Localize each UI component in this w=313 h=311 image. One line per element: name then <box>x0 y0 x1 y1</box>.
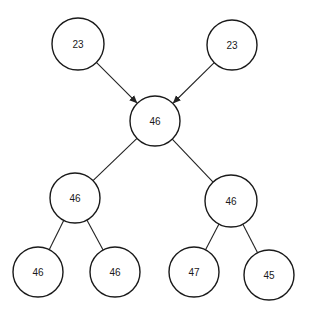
node-mid-left: 46 <box>50 173 100 223</box>
nodes-group: 232346464646464745 <box>13 18 294 300</box>
edge-mid_right-to-leaf_3 <box>206 224 219 250</box>
edge-mid_left-to-leaf_1 <box>49 220 64 249</box>
node-leaf-3: 47 <box>169 247 219 297</box>
node-label: 46 <box>149 116 161 127</box>
node-top-left: 23 <box>52 18 104 70</box>
node-leaf-2: 46 <box>90 247 140 297</box>
node-label: 23 <box>226 40 238 51</box>
edge-mid_left-to-leaf_2 <box>87 220 103 250</box>
node-label: 46 <box>225 196 237 207</box>
node-leaf-4: 45 <box>244 250 294 300</box>
tree-diagram: 232346464646464745 <box>0 0 313 311</box>
node-leaf-1: 46 <box>13 247 63 297</box>
node-label: 47 <box>188 267 200 278</box>
edge-root-to-mid_right <box>172 139 213 182</box>
node-mid-right: 46 <box>205 175 257 227</box>
arrow-edge-top_left-to-root <box>96 62 136 102</box>
node-label: 46 <box>69 193 81 204</box>
edge-mid_right-to-leaf_4 <box>243 224 258 253</box>
arrow-edge-top_right-to-root <box>174 63 215 103</box>
node-label: 45 <box>263 270 275 281</box>
node-label: 46 <box>109 267 121 278</box>
edge-root-to-mid_left <box>93 138 137 180</box>
node-top-right: 23 <box>207 20 257 70</box>
node-label: 46 <box>32 267 44 278</box>
node-label: 23 <box>72 39 84 50</box>
node-root: 46 <box>130 96 180 146</box>
